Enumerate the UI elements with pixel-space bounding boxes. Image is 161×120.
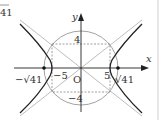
x-axis-arrow-icon [141, 65, 149, 71]
hyperbola-diagram: 41 x y O 4 −4 −5 5 −√41 √41 [0, 0, 161, 120]
tick-label-pos-y: 4 [74, 34, 80, 45]
hyperbola-left-branch [20, 24, 52, 113]
title-fragment: 41 [0, 7, 13, 18]
focus-right [116, 66, 120, 70]
tick-label-pos-focus: √41 [115, 74, 134, 85]
hyperbola-right-branch [110, 24, 142, 113]
tick-label-neg-y: −4 [68, 93, 83, 104]
tick-label-pos-x: 5 [104, 70, 110, 81]
origin-label: O [73, 74, 81, 85]
y-axis-label: y [71, 11, 78, 22]
tick-label-neg-focus: −√41 [15, 74, 42, 85]
focus-left [42, 66, 46, 70]
tick-label-neg-x: −5 [53, 70, 68, 81]
y-axis-arrow-icon [78, 13, 84, 21]
x-axis-label: x [146, 53, 152, 64]
